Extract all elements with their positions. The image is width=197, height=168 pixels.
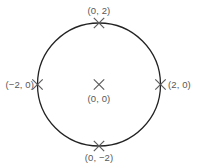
point-marker-origin	[94, 79, 104, 89]
circle-diagram: (0, 2) (2, 0) (0, −2) (−2, 0) (0, 0)	[0, 0, 197, 168]
point-label-left: (−2, 0)	[6, 79, 34, 90]
point-label-bottom: (0, −2)	[85, 152, 113, 163]
point-label-top: (0, 2)	[88, 5, 111, 16]
point-label-origin: (0, 0)	[88, 93, 111, 104]
point-label-right: (2, 0)	[168, 79, 191, 90]
